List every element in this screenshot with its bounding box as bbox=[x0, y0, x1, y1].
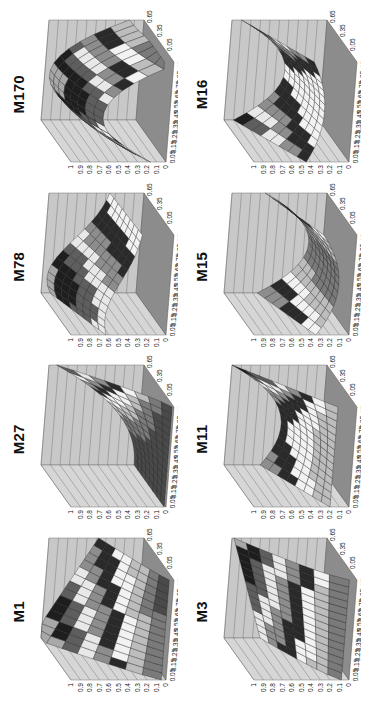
z-tick-label: 0.2 bbox=[143, 510, 150, 519]
y-tick-label: 0.65 bbox=[146, 355, 153, 368]
z-tick-label: 0.7 bbox=[278, 683, 285, 692]
z-tick-label: 0.7 bbox=[278, 510, 285, 519]
y-tick-label: 0.35 bbox=[156, 369, 163, 382]
z-tick-label: 0.6 bbox=[288, 510, 295, 519]
z-tick-label: 0.7 bbox=[278, 165, 285, 174]
surface-panel-m3: M300.10.20.30.40.50.60.70.80.910.050.150… bbox=[187, 526, 370, 699]
z-tick-label: 1 bbox=[250, 683, 257, 687]
z-tick-label: 1 bbox=[67, 683, 74, 687]
y-tick-label: 0.65 bbox=[329, 183, 336, 196]
surface-panel-m16: M1600.10.20.30.40.50.60.70.80.910.050.15… bbox=[187, 8, 370, 181]
z-tick-label: 0.1 bbox=[153, 338, 160, 347]
y-tick-label: 0.05 bbox=[349, 38, 356, 51]
z-tick-label: 0.3 bbox=[134, 338, 141, 347]
z-tick-label: 0 bbox=[345, 510, 352, 514]
z-tick-label: 0.8 bbox=[86, 165, 93, 174]
z-tick-label: 0.5 bbox=[115, 165, 122, 174]
y-tick-label: 0.05 bbox=[349, 556, 356, 569]
z-tick-label: 0.4 bbox=[124, 683, 131, 692]
z-tick-label: 0.9 bbox=[77, 683, 84, 692]
z-tick-label: 0.5 bbox=[115, 683, 122, 692]
x-tick-label: 0.95 bbox=[359, 578, 360, 591]
z-tick-label: 0.2 bbox=[143, 683, 150, 692]
z-tick-label: 0.7 bbox=[96, 338, 103, 347]
y-tick-label: 0.65 bbox=[329, 355, 336, 368]
z-tick-label: 0.2 bbox=[143, 165, 150, 174]
z-tick-label: 0.8 bbox=[269, 683, 276, 692]
surface-plot: 00.10.20.30.40.50.60.70.80.910.050.150.2… bbox=[211, 526, 361, 698]
y-tick-label: 0.35 bbox=[156, 542, 163, 555]
z-tick-label: 0.1 bbox=[335, 683, 342, 692]
z-tick-label: 0.6 bbox=[288, 165, 295, 174]
x-tick-label: 0.95 bbox=[359, 406, 360, 419]
x-tick-label: 0.95 bbox=[177, 61, 178, 74]
z-tick-label: 0.1 bbox=[153, 683, 160, 692]
z-tick-label: 0.9 bbox=[259, 338, 266, 347]
z-tick-label: 0.8 bbox=[86, 683, 93, 692]
y-tick-label: 0.05 bbox=[166, 383, 173, 396]
z-tick-label: 0.1 bbox=[153, 510, 160, 519]
x-tick-label: 0.95 bbox=[177, 406, 178, 419]
x-tick-label: 0.95 bbox=[359, 61, 360, 74]
surface-plot: 00.10.20.30.40.50.60.70.80.910.050.150.2… bbox=[28, 354, 178, 526]
surface-plot: 00.10.20.30.40.50.60.70.80.910.050.150.2… bbox=[28, 9, 178, 181]
z-tick-label: 0.5 bbox=[297, 683, 304, 692]
y-tick-label: 0.05 bbox=[166, 211, 173, 224]
z-tick-label: 0.1 bbox=[335, 338, 342, 347]
z-tick-label: 0.7 bbox=[96, 510, 103, 519]
z-tick-label: 0.5 bbox=[115, 338, 122, 347]
panel-title: M170 bbox=[10, 8, 27, 181]
z-tick-label: 0.7 bbox=[278, 338, 285, 347]
z-tick-label: 0.6 bbox=[105, 683, 112, 692]
z-tick-label: 0.9 bbox=[77, 510, 84, 519]
z-tick-label: 0.7 bbox=[96, 165, 103, 174]
x-tick-label: 0.95 bbox=[359, 233, 360, 246]
panel-title: M78 bbox=[10, 181, 27, 354]
z-tick-label: 0.7 bbox=[96, 683, 103, 692]
z-tick-label: 1 bbox=[67, 338, 74, 342]
z-tick-label: 0.1 bbox=[153, 165, 160, 174]
z-tick-label: 0.3 bbox=[316, 165, 323, 174]
z-tick-label: 0.9 bbox=[77, 165, 84, 174]
z-tick-label: 0.2 bbox=[326, 338, 333, 347]
panel-title: M1 bbox=[10, 526, 27, 699]
z-tick-label: 0.6 bbox=[105, 338, 112, 347]
z-tick-label: 0 bbox=[345, 683, 352, 687]
z-tick-label: 0.2 bbox=[143, 338, 150, 347]
y-tick-label: 0.65 bbox=[329, 528, 336, 541]
z-tick-label: 0.1 bbox=[335, 510, 342, 519]
figure-stage: M100.10.20.30.40.50.60.70.80.910.050.150… bbox=[0, 0, 373, 710]
z-tick-label: 0.8 bbox=[86, 510, 93, 519]
z-tick-label: 0.3 bbox=[134, 683, 141, 692]
z-tick-label: 1 bbox=[250, 165, 257, 169]
x-tick-label: 0.95 bbox=[177, 233, 178, 246]
z-tick-label: 0.9 bbox=[259, 165, 266, 174]
z-tick-label: 0.6 bbox=[105, 165, 112, 174]
z-tick-label: 0 bbox=[162, 683, 169, 687]
z-tick-label: 0 bbox=[162, 510, 169, 514]
panel-title: M3 bbox=[193, 526, 210, 699]
z-tick-label: 1 bbox=[67, 165, 74, 169]
panel-title: M15 bbox=[193, 181, 210, 354]
surface-plot: 00.10.20.30.40.50.60.70.80.910.050.150.2… bbox=[211, 181, 361, 353]
z-tick-label: 0.4 bbox=[307, 165, 314, 174]
y-tick-label: 0.35 bbox=[339, 197, 346, 210]
y-tick-label: 0.35 bbox=[339, 369, 346, 382]
panel-title: M16 bbox=[193, 8, 210, 181]
z-tick-label: 0.4 bbox=[124, 510, 131, 519]
z-tick-label: 0.4 bbox=[124, 338, 131, 347]
z-tick-label: 0.8 bbox=[269, 165, 276, 174]
panel-title: M11 bbox=[193, 353, 210, 526]
z-tick-label: 0.3 bbox=[134, 165, 141, 174]
z-tick-label: 0.9 bbox=[77, 338, 84, 347]
y-tick-label: 0.05 bbox=[166, 38, 173, 51]
z-tick-label: 0 bbox=[345, 338, 352, 342]
surface-plot: 00.10.20.30.40.50.60.70.80.910.050.150.2… bbox=[211, 9, 361, 181]
surface-panel-m27: M2700.10.20.30.40.50.60.70.80.910.050.15… bbox=[4, 353, 187, 526]
z-tick-label: 0.4 bbox=[307, 338, 314, 347]
z-tick-label: 0.5 bbox=[297, 165, 304, 174]
z-tick-label: 0.4 bbox=[124, 165, 131, 174]
z-tick-label: 1 bbox=[250, 338, 257, 342]
surface-plot: 00.10.20.30.40.50.60.70.80.910.050.150.2… bbox=[211, 354, 361, 526]
y-tick-label: 0.35 bbox=[339, 542, 346, 555]
